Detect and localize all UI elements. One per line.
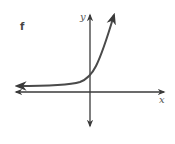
x-axis-label: x	[159, 94, 165, 105]
graph-diagram: f y x	[0, 0, 175, 144]
exponential-curve	[17, 15, 114, 86]
y-axis-label: y	[79, 11, 86, 22]
panel-label: f	[20, 21, 25, 32]
